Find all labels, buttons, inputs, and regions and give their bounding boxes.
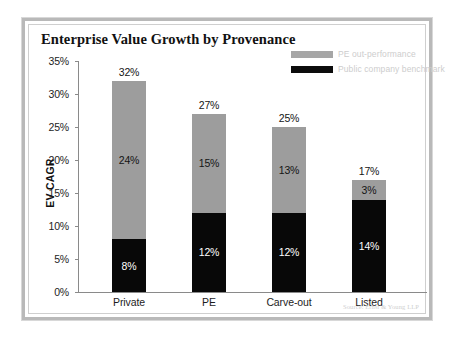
y-tick-label-30: 30% — [49, 88, 69, 100]
bar-label-outperformance: 24% — [112, 154, 146, 166]
bar-label-benchmark: 8% — [112, 260, 146, 272]
y-tick-mark — [75, 160, 78, 161]
legend-swatch-gray-icon — [291, 51, 333, 58]
legend-swatch-black-icon — [291, 66, 333, 73]
slide-inner-border: Enterprise Value Growth by Provenance EV… — [28, 24, 426, 314]
bar-listed[interactable]: 3% 14% — [352, 180, 386, 292]
x-tick-label-pe: PE — [174, 296, 244, 308]
bar-total-label-pe: 27% — [192, 99, 226, 111]
slide-frame: Enterprise Value Growth by Provenance EV… — [22, 18, 432, 320]
source-attribution: Source: Ernst & Young LLP — [343, 303, 419, 310]
bar-label-benchmark: 12% — [272, 246, 306, 258]
legend-label-benchmark: Public company benchmark — [338, 64, 445, 74]
y-tick-label-0: 0% — [54, 286, 69, 298]
y-tick-label-35: 35% — [49, 55, 69, 67]
bar-pe[interactable]: 15% 12% — [192, 114, 226, 292]
y-tick-label-20: 20% — [49, 154, 69, 166]
legend-label-outperformance: PE out-performance — [338, 49, 416, 59]
y-axis-line — [78, 61, 79, 293]
x-tick-label-private: Private — [94, 296, 164, 308]
y-tick-mark — [75, 61, 78, 62]
y-tick-mark — [75, 94, 78, 95]
y-tick-mark — [75, 292, 78, 293]
bar-total-label-listed: 17% — [352, 165, 386, 177]
bar-label-benchmark: 14% — [352, 240, 386, 252]
y-tick-mark — [75, 127, 78, 128]
legend-item-outperformance[interactable]: PE out-performance — [291, 49, 431, 62]
bar-total-label-private: 32% — [112, 66, 146, 78]
y-tick-label-5: 5% — [54, 253, 69, 265]
y-tick-mark — [75, 259, 78, 260]
x-axis-line — [78, 292, 427, 293]
bar-label-outperformance: 15% — [192, 157, 226, 169]
bar-label-outperformance: 13% — [272, 164, 306, 176]
bar-carve-out[interactable]: 13% 12% — [272, 127, 306, 292]
y-tick-label-25: 25% — [49, 121, 69, 133]
y-tick-label-10: 10% — [49, 220, 69, 232]
legend-item-benchmark[interactable]: Public company benchmark — [291, 64, 431, 77]
y-tick-label-15: 15% — [49, 187, 69, 199]
bar-private[interactable]: 24% 8% — [112, 81, 146, 292]
bar-label-outperformance: 3% — [352, 184, 386, 196]
chart-legend: PE out-performance Public company benchm… — [291, 49, 431, 79]
y-tick-mark — [75, 193, 78, 194]
bar-label-benchmark: 12% — [192, 246, 226, 258]
x-tick-label-carve-out: Carve-out — [254, 296, 324, 308]
bar-total-label-carve-out: 25% — [272, 112, 306, 124]
y-tick-mark — [75, 226, 78, 227]
